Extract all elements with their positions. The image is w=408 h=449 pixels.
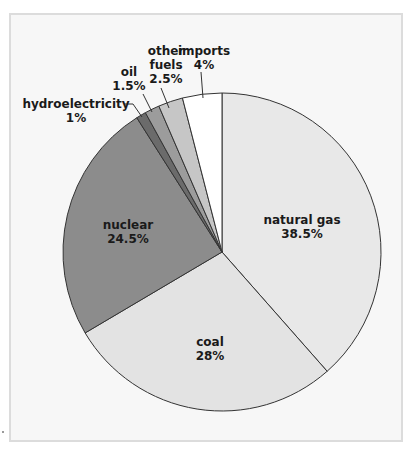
label-natural-gas: natural gas 38.5% [263, 213, 340, 241]
label-hydroelectricity: hydroelectricity 1% [22, 97, 129, 125]
label-nuclear: nuclear 24.5% [103, 218, 153, 246]
label-coal: coal 28% [196, 335, 225, 363]
label-imports: imports 4% [178, 44, 230, 72]
pie-slices [63, 93, 381, 411]
label-oil: oil 1.5% [112, 65, 145, 93]
leader-line-oil [143, 94, 152, 112]
